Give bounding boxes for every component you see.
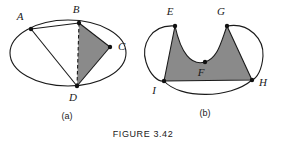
label-point-c: C [118,40,126,52]
vertex-point-b [77,21,81,25]
label-point-e: E [166,5,174,17]
vertex-point-h [250,78,254,82]
figure-container: A B C D (a) E G F H I [0,0,287,146]
vertex-point-a [29,27,33,31]
label-point-i: I [151,84,157,96]
sub-caption-a: (a) [62,111,73,121]
shaded-region-efghi [164,26,252,81]
panel-b-group: E G F H I (b) [145,5,268,118]
vertex-point-f [203,60,207,64]
vertex-point-c [108,45,112,49]
vertex-point-d [75,84,79,88]
label-point-d: D [68,91,77,103]
label-point-f: F [197,66,205,78]
arc-bottom-lune-i-h [164,80,252,94]
vertex-point-i [162,79,166,83]
sub-caption-b: (b) [200,108,211,118]
panel-a-group: A B C D (a) [10,3,126,121]
ellipse-outline [10,20,126,86]
figure-caption: FIGURE 3.42 [113,129,174,139]
label-point-h: H [258,76,268,88]
edge-a-b [31,23,79,29]
vertex-point-g [225,24,229,28]
vertex-point-e [173,24,177,28]
label-point-g: G [217,5,225,17]
label-point-a: A [16,10,24,22]
edge-a-d [31,29,77,86]
figure-3-42-illustration: A B C D (a) E G F H I [0,0,287,146]
shaded-triangle-bcd [77,23,110,86]
label-point-b: B [73,3,80,15]
